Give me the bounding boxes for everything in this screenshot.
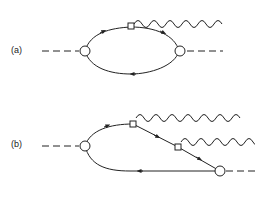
vertex-circle-right [215,166,225,176]
fermion-line-lower [85,51,179,74]
vertex-circle-left [80,46,90,56]
vertex-square-1 [130,121,136,127]
fermion-line-upper-left [85,27,131,51]
photon-line-2 [181,139,255,146]
photon-line [134,21,222,28]
vertex-square-2 [175,144,181,150]
vertex-circle-right [175,46,185,56]
diagram-a [42,21,223,75]
vertex-square [128,23,134,29]
feynman-diagrams [0,0,255,223]
fermion-line-upper [85,124,133,146]
photon-line-1 [136,115,240,122]
vertex-circle-left [80,141,90,151]
diagram-b [42,115,255,177]
fermion-line-upper-right [131,27,179,51]
